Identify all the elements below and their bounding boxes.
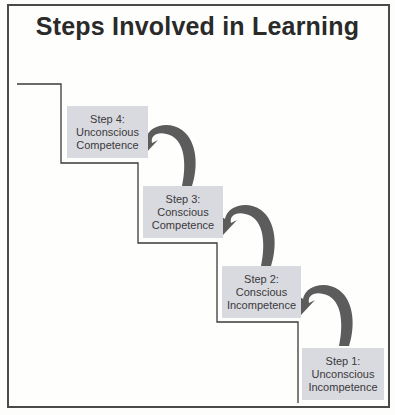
step-2-line1: Conscious xyxy=(236,286,287,299)
step-3-line2: Competence xyxy=(152,219,214,232)
step-4-line2: Competence xyxy=(76,139,138,152)
step-1-line2: Incompetence xyxy=(308,381,377,394)
step-3-line1: Conscious xyxy=(157,206,208,219)
step-3-number: Step 3: xyxy=(166,193,201,206)
curved-arrow-icon xyxy=(219,205,275,266)
step-4-box: Step 4: Unconscious Competence xyxy=(67,106,148,158)
step-2-line2: Incompetence xyxy=(227,299,296,312)
step-4-line1: Unconscious xyxy=(76,126,139,139)
step-2-number: Step 2: xyxy=(244,273,279,286)
step-1-box: Step 1: Unconscious Incompetence xyxy=(302,348,384,400)
step-1-number: Step 1: xyxy=(326,355,361,368)
step-4-number: Step 4: xyxy=(90,113,125,126)
curved-arrow-icon xyxy=(297,285,353,346)
step-1-line1: Unconscious xyxy=(312,368,375,381)
step-2-box: Step 2: Conscious Incompetence xyxy=(222,266,301,318)
step-3-box: Step 3: Conscious Competence xyxy=(143,186,223,238)
curved-arrow-icon xyxy=(140,125,196,186)
